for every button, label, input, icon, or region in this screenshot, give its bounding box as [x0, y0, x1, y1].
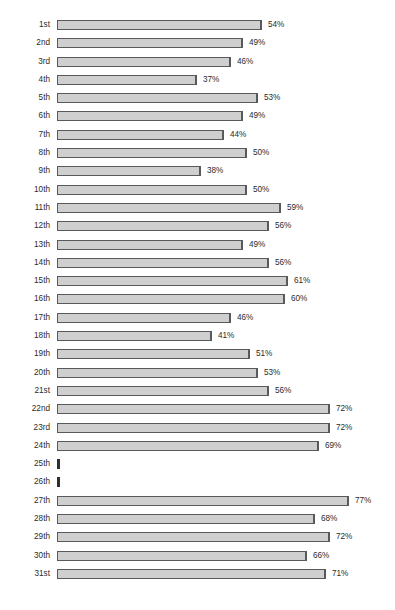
bar-row: 26th: [0, 475, 395, 493]
bar-row: 25th: [0, 457, 395, 475]
bar-category-label: 1st: [0, 20, 50, 30]
bar-value-label: 60%: [291, 294, 307, 304]
bar[interactable]: [57, 551, 307, 561]
bar-category-label: 17th: [0, 313, 50, 323]
bar[interactable]: [57, 203, 281, 213]
bar-track: [57, 477, 60, 487]
bar-track: [57, 57, 231, 67]
bar-track: [57, 130, 224, 140]
bar-row: 15th61%: [0, 274, 395, 292]
bar-track: [57, 38, 243, 48]
bar-category-label: 12th: [0, 221, 50, 231]
bar-row: 7th44%: [0, 128, 395, 146]
bar-track: [57, 20, 262, 30]
bar[interactable]: [57, 331, 212, 341]
bar-category-label: 15th: [0, 276, 50, 286]
bar-row: 20th53%: [0, 366, 395, 384]
bar[interactable]: [57, 459, 60, 469]
bar[interactable]: [57, 258, 269, 268]
bar-category-label: 16th: [0, 294, 50, 304]
bar-category-label: 5th: [0, 93, 50, 103]
bar-row: 2nd49%: [0, 36, 395, 54]
bar[interactable]: [57, 221, 269, 231]
bar-value-label: 38%: [207, 166, 223, 176]
bar-row: 17th46%: [0, 311, 395, 329]
bar[interactable]: [57, 313, 231, 323]
bar[interactable]: [57, 532, 330, 542]
bar-row: 28th68%: [0, 512, 395, 530]
bar-row: 1st54%: [0, 18, 395, 36]
bar-category-label: 10th: [0, 185, 50, 195]
bar-value-label: 56%: [275, 258, 291, 268]
bar-track: [57, 569, 326, 579]
bar-value-label: 49%: [249, 111, 265, 121]
bar-track: [57, 368, 258, 378]
bar-row: 9th38%: [0, 164, 395, 182]
bar-category-label: 29th: [0, 532, 50, 542]
bar[interactable]: [57, 294, 285, 304]
bar-row: 21st56%: [0, 384, 395, 402]
bar-category-label: 21st: [0, 386, 50, 396]
bar-category-label: 7th: [0, 130, 50, 140]
bar-category-label: 11th: [0, 203, 50, 213]
bar-category-label: 22nd: [0, 404, 50, 414]
bar-value-label: 69%: [325, 441, 341, 451]
bar-track: [57, 221, 269, 231]
bar-value-label: 50%: [253, 148, 269, 158]
horizontal-bar-chart: 1st54%2nd49%3rd46%4th37%5th53%6th49%7th4…: [0, 18, 395, 585]
chart-title: [18, 0, 378, 3]
bar-value-label: 53%: [264, 93, 280, 103]
bar-category-label: 9th: [0, 166, 50, 176]
bar[interactable]: [57, 93, 258, 103]
bar-value-label: 72%: [336, 423, 352, 433]
bar[interactable]: [57, 166, 201, 176]
bar[interactable]: [57, 276, 288, 286]
bar[interactable]: [57, 496, 349, 506]
bar[interactable]: [57, 368, 258, 378]
bar-category-label: 18th: [0, 331, 50, 341]
bar-value-label: 68%: [321, 514, 337, 524]
bar[interactable]: [57, 441, 319, 451]
bar-category-label: 31st: [0, 569, 50, 579]
bar-value-label: 44%: [230, 130, 246, 140]
bar-row: 3rd46%: [0, 55, 395, 73]
bar-category-label: 3rd: [0, 57, 50, 67]
bar[interactable]: [57, 75, 197, 85]
bar-track: [57, 258, 269, 268]
bar-track: [57, 313, 231, 323]
bar[interactable]: [57, 57, 231, 67]
bar-track: [57, 459, 60, 469]
bar-value-label: 41%: [218, 331, 234, 341]
bar-row: 14th56%: [0, 256, 395, 274]
bar-row: 23rd72%: [0, 421, 395, 439]
bar[interactable]: [57, 38, 243, 48]
bar[interactable]: [57, 111, 243, 121]
bar-row: 13th49%: [0, 238, 395, 256]
bar-value-label: 59%: [287, 203, 303, 213]
bar[interactable]: [57, 20, 262, 30]
bar-category-label: 4th: [0, 75, 50, 85]
bar[interactable]: [57, 477, 60, 487]
bar-track: [57, 532, 330, 542]
bar-track: [57, 276, 288, 286]
bar-value-label: 46%: [237, 313, 253, 323]
bar[interactable]: [57, 240, 243, 250]
bar-value-label: 37%: [203, 75, 219, 85]
bar-track: [57, 240, 243, 250]
bar-value-label: 72%: [336, 404, 352, 414]
bar[interactable]: [57, 404, 330, 414]
bar[interactable]: [57, 514, 315, 524]
bar-row: 8th50%: [0, 146, 395, 164]
bar[interactable]: [57, 423, 330, 433]
bar[interactable]: [57, 569, 326, 579]
bar[interactable]: [57, 386, 269, 396]
bar[interactable]: [57, 130, 224, 140]
bar[interactable]: [57, 148, 247, 158]
bar-track: [57, 166, 201, 176]
bar-track: [57, 185, 247, 195]
bar-value-label: 72%: [336, 532, 352, 542]
bar[interactable]: [57, 185, 247, 195]
bar-track: [57, 203, 281, 213]
bar-track: [57, 148, 247, 158]
bar[interactable]: [57, 349, 250, 359]
